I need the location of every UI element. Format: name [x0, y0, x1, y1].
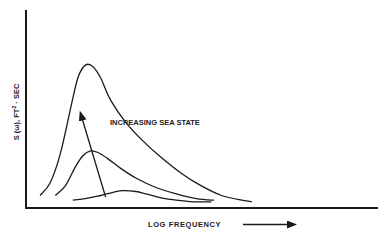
- annotation-label: INCREASING SEA STATE: [110, 118, 200, 127]
- spectrum-curve-low-sea-state: [73, 191, 212, 202]
- y-axis-label: S (ω), FT2 · SEC: [11, 83, 21, 140]
- spectrum-curve-high-sea-state: [40, 64, 252, 202]
- x-axis-label: LOG FREQUENCY: [148, 220, 221, 229]
- spectrum-chart: S (ω), FT2 · SEC INCREASING SEA STATE LO…: [0, 0, 389, 237]
- spectrum-curve-medium-sea-state: [55, 151, 214, 200]
